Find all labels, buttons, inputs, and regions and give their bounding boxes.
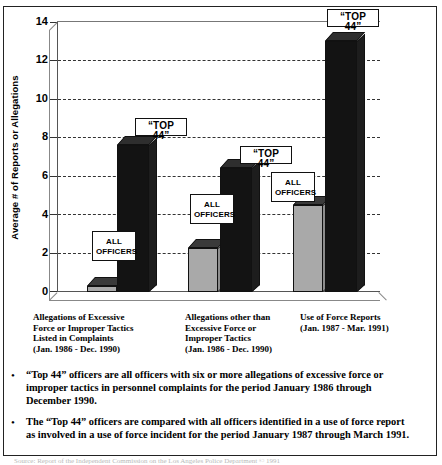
bar-face [293, 205, 323, 292]
caption-line-2: Force or Improper Tactics [33, 323, 183, 334]
callout-all-officers-group1: ALL OFFICERS [92, 231, 136, 261]
y-tick-0: 0 [22, 286, 48, 297]
notes-list: • “Top 44” officers are all officers wit… [0, 368, 442, 448]
bullet-icon: • [0, 368, 26, 408]
callout-all-officers-group2: ALL OFFICERS [190, 194, 234, 224]
bullet-text-2: The “Top 44” officers are compared with … [26, 415, 442, 441]
chart-page: Average # of Reports or Allegations 14 1… [0, 0, 442, 465]
tickmark-12 [50, 60, 57, 61]
callout-line-1: ALL [194, 200, 230, 210]
caption-line-2: (Jan. 1987 - Mar. 1991) [300, 323, 430, 334]
x-caption-group3: Use of Force Reports (Jan. 1987 - Mar. 1… [300, 312, 430, 333]
tickmark-2 [50, 253, 57, 254]
callout-all-officers-group3: ALL OFFICERS [271, 172, 315, 202]
callout-line-1: ALL [275, 178, 311, 188]
bar-side [357, 34, 365, 292]
bar-all-officers-group2[interactable] [188, 248, 218, 292]
plot-depth-left-edge [49, 30, 50, 300]
y-axis-title: Average # of Reports or Allegations [9, 58, 20, 258]
caption-line-1: Allegations of Excessive [33, 312, 183, 323]
bar-side [149, 138, 157, 292]
bar-chart: Average # of Reports or Allegations 14 1… [0, 0, 442, 368]
source-footnote: Source: Report of the Independent Commis… [14, 457, 434, 465]
caption-line-4: (Jan. 1986 - Dec. 1990) [33, 344, 183, 355]
callout-top44-group1: “TOP 44” [135, 118, 187, 136]
caption-line-4: (Jan. 1986 - Dec. 1990) [185, 344, 315, 355]
caption-line-2: Excessive Force or [185, 323, 315, 334]
bar-top44-group3[interactable] [325, 41, 357, 292]
callout-top44-group3: “TOP 44” [327, 9, 379, 27]
y-tick-6: 6 [22, 170, 48, 181]
x-caption-group1: Allegations of Excessive Force or Improp… [33, 312, 183, 354]
bar-face [325, 41, 357, 292]
tickmark-8 [50, 137, 57, 138]
bar-face [220, 168, 252, 292]
x-axis-captions: Allegations of Excessive Force or Improp… [0, 310, 442, 368]
bullet-text-1: “Top 44” officers are all officers with … [26, 368, 442, 408]
y-tick-8: 8 [22, 131, 48, 142]
bar-top44-group1[interactable] [117, 145, 149, 292]
tickmark-10 [50, 99, 57, 100]
caption-line-1: Use of Force Reports [300, 312, 430, 323]
y-tick-12: 12 [22, 54, 48, 65]
list-item: • “Top 44” officers are all officers wit… [0, 368, 442, 408]
callout-line-2: OFFICERS [96, 247, 132, 257]
plot-floor-front-edge [49, 300, 380, 301]
y-tick-2: 2 [22, 247, 48, 258]
callout-line-1: ALL [96, 237, 132, 247]
y-tick-10: 10 [22, 93, 48, 104]
tickmark-6 [50, 176, 57, 177]
y-tick-14: 14 [22, 16, 48, 27]
bar-face [87, 286, 117, 292]
bar-face [188, 248, 218, 292]
caption-line-3: Improper Tactics [185, 333, 315, 344]
y-axis-tick-labels: 14 12 10 8 6 4 2 0 [22, 0, 48, 292]
x-caption-group2: Allegations other than Excessive Force o… [185, 312, 315, 354]
bar-all-officers-group1[interactable] [87, 286, 117, 292]
callout-line-2: OFFICERS [275, 188, 311, 198]
y-tick-4: 4 [22, 209, 48, 220]
bar-all-officers-group3[interactable] [293, 205, 323, 292]
list-item: • The “Top 44” officers are compared wit… [0, 415, 442, 441]
bullet-icon: • [0, 415, 26, 441]
bar-top44-group2[interactable] [220, 168, 252, 292]
caption-line-3: Listed in Complaints [33, 333, 183, 344]
tickmark-4 [50, 214, 57, 215]
bar-side [252, 161, 260, 292]
caption-line-1: Allegations other than [185, 312, 315, 323]
callout-line-2: OFFICERS [194, 210, 230, 220]
bar-group-use-of-force [289, 22, 394, 292]
callout-top44-group2: “TOP 44” [240, 146, 292, 164]
bar-face [117, 145, 149, 292]
